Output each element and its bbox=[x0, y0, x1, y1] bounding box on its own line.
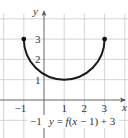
y-tick-label: −1 bbox=[30, 115, 42, 127]
y-tick-label: 1 bbox=[35, 74, 41, 86]
endpoint-left bbox=[21, 37, 26, 42]
x-axis-label: x bbox=[121, 101, 127, 113]
x-tick-label: 3 bbox=[102, 102, 108, 114]
x-tick-labels: −1 1 2 3 bbox=[15, 102, 108, 114]
y-tick-label: 2 bbox=[35, 53, 41, 65]
function-caption: y = f(x − 1) + 3 bbox=[48, 115, 116, 128]
function-graph: x y −1 1 2 3 1 2 3 −1 y = f(x − 1) + 3 bbox=[0, 0, 128, 138]
y-tick-label: 3 bbox=[35, 33, 41, 45]
endpoint-right bbox=[102, 37, 107, 42]
x-tick-label: −1 bbox=[15, 102, 27, 114]
y-tick-labels: 1 2 3 bbox=[35, 33, 41, 86]
y-axis-label: y bbox=[32, 5, 38, 17]
x-tick-label: 1 bbox=[62, 102, 68, 114]
x-tick-label: 2 bbox=[82, 102, 88, 114]
